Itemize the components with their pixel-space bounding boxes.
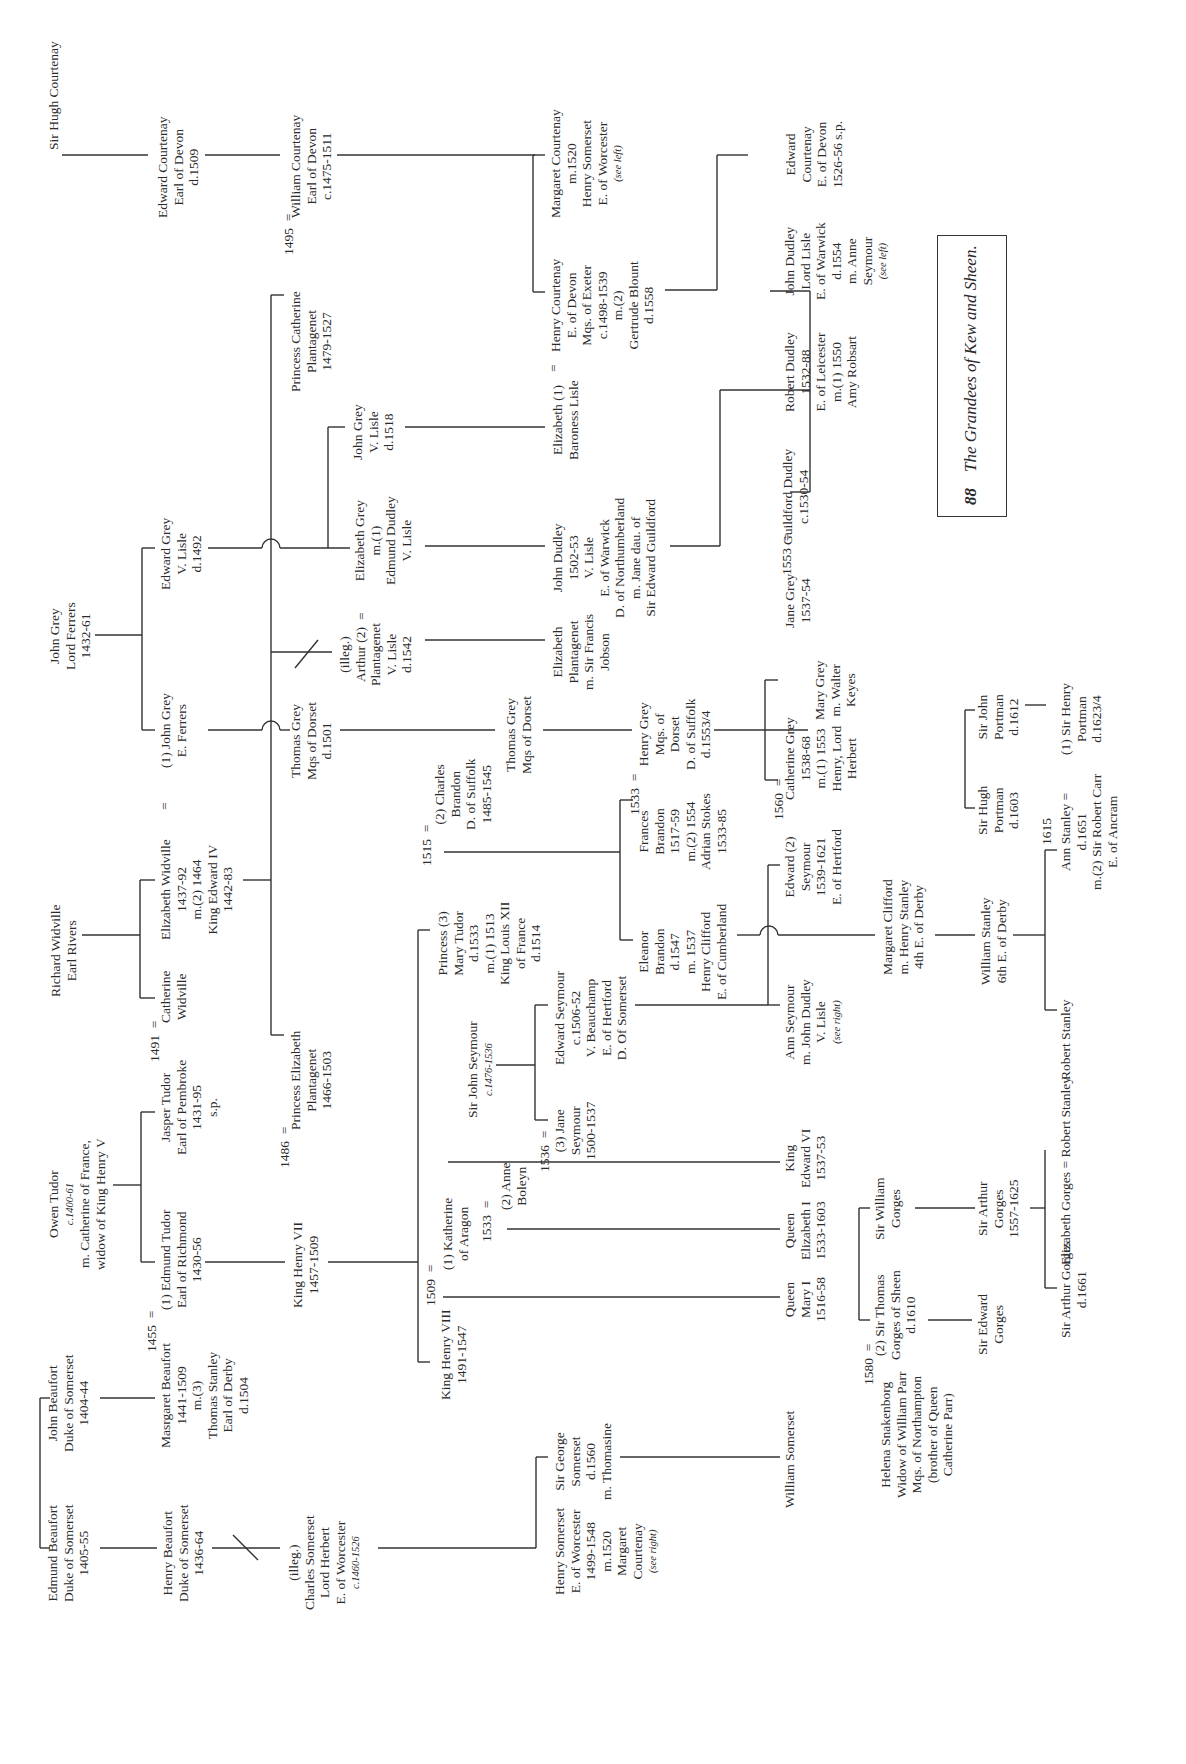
person-henry-portman: (1) Sir HenryPortmand.1623/4 — [1058, 683, 1105, 755]
marriage-1491: 1491 = — [148, 1021, 162, 1062]
family-tree-diagram: 88The Grandees of Kew and Sheen. Sir Hug… — [0, 0, 1186, 1764]
person-arthur-plantagenet: (illeg.)Arthur (2)PlantagenetV. Lisled.1… — [337, 623, 415, 686]
person-elizabeth-plantagenet-jobson: ElizabethPlantagenetm. Sir FrancisJobson — [550, 614, 612, 690]
person-john-seymour: Sir John Seymourc.1476-1536 — [465, 1021, 496, 1118]
person-william-courtenay: William CourtenayEarl of Devonc.1475-151… — [288, 115, 335, 218]
person-catherine-widville: CatherineWidville — [158, 971, 189, 1023]
person-mary-tudor: Princess (3)Mary Tudord.1533m.(1) 1513Ki… — [435, 902, 544, 985]
person-jasper-tudor: Jasper TudorEarl of Pembroke1431-95s.p. — [158, 1060, 220, 1155]
person-edward-grey: Edward GreyV. Lisled.1492 — [158, 518, 205, 590]
person-catherine-plantagenet: Princess CatherinePlantagenet1479-1527 — [288, 291, 335, 392]
person-edward-seymour-hertford: Edward (2)Seymour1539-1621E. of Hertford — [782, 829, 844, 905]
person-elizabeth-baroness-lisle: Elizabeth (1)Baroness Lisle — [550, 380, 581, 460]
person-elizabeth-plantagenet: Princess ElizabethPlantagenet1466-1503 — [288, 1031, 335, 1130]
person-edmund-tudor: (1) Edmund TudorEarl of Richmond1430-56 — [158, 1209, 205, 1310]
marriage-elizabeth-lisle: = — [547, 364, 561, 372]
person-mary-i: QueenMary I1516-58 — [782, 1277, 829, 1322]
person-robert-stanley: Robert Stanley — [1058, 999, 1074, 1080]
person-edward-vi: KingEdward VI1537-53 — [782, 1129, 829, 1188]
person-arthur-gorges-1557: Sir ArthurGorges1557-1625 — [975, 1180, 1022, 1239]
person-john-grey-lisle: John GreyV. Lisled.1518 — [350, 404, 397, 460]
person-charles-brandon: (2) CharlesBrandonD. of Suffolk1485-1545 — [432, 759, 494, 830]
person-thomas-gorges: (2) Sir ThomasGorges of Sheend.1610 — [872, 1270, 919, 1360]
person-george-somerset: Sir GeorgeSomersetd.1560m. Thomasine — [552, 1423, 614, 1500]
marriage-1455: 1455 = — [145, 1311, 159, 1352]
person-ann-stanley: Ann Stanley =d.1651m.(2) Sir Robert Carr… — [1058, 774, 1120, 890]
marriage-widville-grey: = — [158, 802, 172, 810]
diagram-title: 88The Grandees of Kew and Sheen. — [951, 245, 991, 505]
person-edward-courtenay-1526: EdwardCourtenayE. of Devon1526-56 s.p. — [783, 121, 845, 188]
person-john-portman: Sir JohnPortmand.1612 — [975, 694, 1022, 740]
person-margaret-clifford: Margaret Cliffordm. Henry Stanley4th E. … — [880, 879, 927, 975]
person-edward-seymour-somerset: Edward Seymourc.1506-52V. BeauchampE. of… — [552, 971, 630, 1065]
person-jane-seymour: (3) JaneSeymour1500-1537 — [552, 1102, 599, 1161]
person-charles-somerset: (illeg.)Charles SomersetLord HerbertE. o… — [286, 1515, 364, 1610]
person-richard-widville: Richard WidvilleEarl Rivers — [48, 904, 79, 997]
person-william-stanley: William Stanley6th E. of Derby — [978, 897, 1009, 985]
person-henry-courtenay: Henry CourtenayE. of DevonMqs. of Exeter… — [548, 259, 657, 352]
title-text: The Grandees of Kew and Sheen. — [961, 245, 980, 472]
person-henry-somerset: Henry SomersetE. of Worcester1499-1548m.… — [552, 1508, 661, 1595]
person-guildford-dudley: Guildford Dudleyc.1530-54 — [780, 449, 811, 545]
marriage-1553-jane-grey: 1553 = — [780, 534, 794, 575]
person-elizabeth-widville: Elizabeth Widville1437-92m.(2) 1464King … — [158, 839, 236, 940]
person-elizabeth-grey: Elizabeth Greym.(1)Edmund DudleyV. Lisle — [352, 496, 414, 585]
marriage-1560: 1560 = — [772, 779, 786, 820]
person-margaret-courtenay: Margaret Courtenaym.1520Henry SomersetE.… — [548, 109, 626, 218]
person-owen-tudor: Owen Tudorc.1400-61m. Catherine of Franc… — [46, 1138, 108, 1270]
marriage-1515: 1515 = — [420, 825, 434, 866]
marriage-1486: 1486 = — [278, 1127, 292, 1168]
person-john-beaufort: John BeaufortDuke of Somerset1404-44 — [45, 1355, 92, 1452]
person-katherine-aragon: (1) Katherineof Aragon — [440, 1198, 471, 1270]
person-william-somerset: William Somerset — [782, 1411, 798, 1508]
person-helena-snakenborg: Helena SnakenborgWidow of William ParrMq… — [878, 1371, 956, 1498]
person-john-grey-lord-ferrers: John GreyLord Ferrers1432-61 — [47, 602, 94, 670]
person-john-dudley-warwick: John DudleyLord LisleE. of Warwickd.1554… — [782, 222, 891, 300]
person-hugh-courtenay: Sir Hugh Courtenay — [46, 41, 62, 150]
person-edmund-beaufort: Edmund BeaufortDuke of Somerset1405-55 — [45, 1505, 92, 1602]
person-john-grey-e-ferrers: (1) John GreyE. Ferrers — [158, 693, 189, 768]
person-thomas-grey-d1501: Thomas GreyMqs of Dorsetd.1501 — [288, 702, 335, 780]
marriage-1509: 1509 = — [424, 1265, 438, 1306]
marriage-1533-boleyn: 1533 = — [480, 1201, 494, 1242]
page-number: 88 — [961, 488, 980, 505]
person-thomas-grey: Thomas GreyMqs of Dorset — [503, 696, 534, 774]
person-catherine-grey: Catherine Grey1538-68m.(1) 1553Henry, Lo… — [782, 717, 860, 800]
person-eleanor-brandon: EleanorBrandond.1547m. 1537Henry Cliffor… — [636, 904, 729, 1000]
person-margaret-beaufort: Masrgaret Beaufort1441-1509m.(3)Thomas S… — [158, 1343, 251, 1448]
marriage-1536: 1536 = — [538, 1131, 552, 1172]
person-edward-gorges: Sir EdwardGorges — [975, 1294, 1006, 1355]
person-frances-brandon: FrancesBrandon1517-59m.(2) 1554Adrian St… — [636, 793, 729, 870]
person-elizabeth-gorges: Elizabeth Gorges = Robert Stanley — [1058, 1077, 1074, 1265]
person-ann-seymour: Ann Seymourm. John DudleyV. Lisle(see ri… — [782, 979, 844, 1065]
person-henry-vii: King Henry VII1457-1509 — [290, 1222, 321, 1308]
person-edward-courtenay-d1509: Edward CourtenayEarl of Devond.1509 — [155, 116, 202, 218]
person-henry-viii: King Henry VIII1491-1547 — [438, 1310, 469, 1400]
person-william-gorges: Sir WilliamGorges — [872, 1177, 903, 1240]
person-henry-beaufort: Henry BeaufortDuke of Somerset1436-64 — [160, 1505, 207, 1602]
person-hugh-portman: Sir HughPortmand.1603 — [975, 786, 1022, 835]
person-jane-grey: Jane Grey1537-54 — [782, 574, 813, 628]
marriage-arthur: = — [355, 612, 369, 620]
person-henry-grey: Henry GreyMqs. ofDorsetD. of Suffolkd.15… — [636, 699, 714, 770]
person-elizabeth-i: QueenElizabeth I1533-1603 — [782, 1201, 829, 1260]
marriage-1495: 1495 = — [282, 214, 296, 255]
person-mary-grey: Mary Greym. WalterKeyes — [812, 660, 859, 720]
person-anne-boleyn: (2) AnneBoleyn — [498, 1162, 529, 1210]
person-robert-dudley: Robert Dudley1532-88E. of Leicesterm.(1)… — [782, 332, 860, 412]
person-john-dudley-northumberland: John Dudley1502-53V. LisleE. of WarwickD… — [550, 498, 659, 618]
marriage-1615: 1615 — [1040, 818, 1054, 845]
